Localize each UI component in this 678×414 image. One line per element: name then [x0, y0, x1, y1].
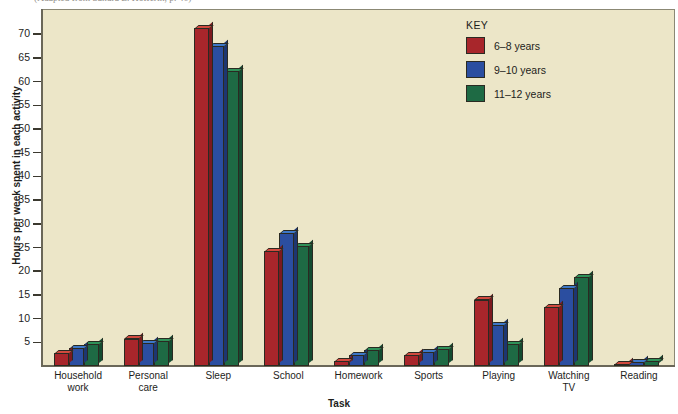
bar-side-face: [489, 293, 493, 362]
bar-8-0: [614, 364, 629, 366]
bar-front-face: [644, 361, 659, 366]
y-tick-65: [33, 57, 41, 59]
bar-front-face: [629, 362, 644, 366]
y-tick-50: [33, 128, 41, 130]
bar-3-0: [264, 251, 279, 366]
bar-2-0: [194, 28, 209, 366]
bar-side-face: [309, 240, 313, 363]
bar-side-face: [589, 271, 593, 363]
bar-side-face: [559, 301, 563, 363]
y-tick-label-5: 5: [8, 335, 30, 347]
y-tick-label-10: 10: [8, 312, 30, 324]
x-category-label-8: Reading: [594, 370, 678, 382]
bar-front-face: [334, 361, 349, 366]
y-tick-40: [33, 176, 41, 178]
y-axis-line: [41, 9, 43, 367]
y-tick-60: [33, 81, 41, 83]
bar-front-face: [404, 355, 419, 366]
legend-swatch-icon-0: [466, 37, 485, 54]
legend-label-0: 6–8 years: [494, 40, 540, 52]
bar-front-face: [474, 300, 489, 366]
chart-legend: KEY 6–8 years9–10 years11–12 years: [466, 19, 626, 109]
bar-chart-figure: 510152025303540455055606570 Household wo…: [0, 0, 678, 414]
y-tick-5: [33, 342, 41, 344]
bar-front-face: [54, 353, 69, 366]
y-tick-25: [33, 247, 41, 249]
y-tick-10: [33, 318, 41, 320]
y-tick-55: [33, 105, 41, 107]
bar-1-0: [124, 339, 139, 366]
bar-5-0: [404, 355, 419, 366]
bar-4-0: [334, 361, 349, 366]
legend-item-2: 11–12 years: [466, 85, 626, 102]
legend-swatch-icon-1: [466, 61, 485, 78]
bar-front-face: [264, 251, 279, 366]
bar-7-0: [544, 307, 559, 366]
bar-8-2: [644, 361, 659, 366]
y-tick-35: [33, 199, 41, 201]
bar-side-face: [224, 40, 228, 363]
legend-swatch-icon-2: [466, 85, 485, 102]
legend-item-1: 9–10 years: [466, 61, 626, 78]
bar-side-face: [294, 227, 298, 363]
bar-front-face: [544, 307, 559, 366]
bar-side-face: [239, 65, 243, 363]
y-tick-20: [33, 270, 41, 272]
bar-side-face: [209, 22, 213, 363]
bar-0-0: [54, 353, 69, 366]
y-tick-label-70: 70: [8, 27, 30, 39]
bar-8-1: [629, 362, 644, 366]
bar-6-0: [474, 300, 489, 366]
bar-front-face: [194, 28, 209, 366]
legend-label-2: 11–12 years: [494, 88, 551, 100]
legend-item-0: 6–8 years: [466, 37, 626, 54]
x-axis-title: Task: [0, 398, 678, 409]
bar-side-face: [279, 245, 283, 363]
bar-front-face: [614, 364, 629, 366]
bar-side-face: [574, 282, 578, 363]
y-tick-70: [33, 33, 41, 35]
y-axis-title: Hours per week spent in each activity: [11, 56, 22, 296]
y-tick-15: [33, 294, 41, 296]
bar-front-face: [124, 339, 139, 366]
legend-label-1: 9–10 years: [494, 64, 546, 76]
y-tick-30: [33, 223, 41, 225]
y-tick-45: [33, 152, 41, 154]
legend-title: KEY: [466, 19, 626, 31]
legend-rows: 6–8 years9–10 years11–12 years: [466, 37, 626, 102]
